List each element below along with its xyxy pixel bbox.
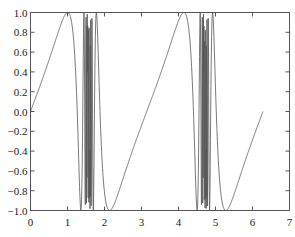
x-tick-label: 3 [139,216,145,228]
y-tick-label: 0.2 [14,86,28,98]
x-tick-label: 0 [28,216,34,228]
y-tick-label: −0.4 [8,145,28,157]
plot-frame [31,13,290,211]
y-tick-label: −0.2 [8,125,28,137]
series-line [31,13,263,211]
y-tick-label: 1.0 [14,7,28,19]
x-tick-label: 6 [250,216,256,228]
x-tick-label: 5 [213,216,219,228]
y-tick-label: 0.0 [14,106,28,118]
plot-line [31,13,263,211]
x-tick-label: 4 [176,216,182,228]
x-tick-label: 1 [65,216,71,228]
x-tick-label: 7 [287,216,293,228]
x-tick-label: 2 [102,216,108,228]
y-tick-label: 0.6 [14,46,28,58]
y-tick-label: −1.0 [8,205,28,217]
y-tick-label: 0.8 [14,26,28,38]
y-tick-label: 0.4 [14,66,28,78]
axes: 01234567−1.0−0.8−0.6−0.4−0.20.00.20.40.6… [8,7,293,228]
line-chart: 01234567−1.0−0.8−0.6−0.4−0.20.00.20.40.6… [0,0,295,237]
y-tick-label: −0.8 [8,185,28,197]
y-tick-label: −0.6 [8,165,28,177]
